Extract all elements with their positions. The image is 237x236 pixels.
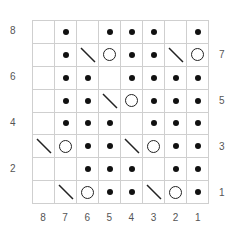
chart-cell — [99, 181, 121, 204]
purl-dot-icon — [151, 29, 157, 35]
chart-cell — [33, 181, 55, 204]
chart-cell — [55, 67, 77, 90]
purl-dot-icon — [129, 189, 135, 195]
chart-cell — [33, 21, 55, 44]
purl-dot-icon — [173, 75, 179, 81]
column-label: 3 — [143, 212, 165, 223]
purl-dot-icon — [151, 120, 157, 126]
chart-cell — [99, 135, 121, 158]
chart-cell — [77, 113, 99, 136]
decrease-slash-icon — [57, 183, 75, 201]
purl-dot-icon — [63, 75, 69, 81]
chart-cell — [55, 135, 77, 158]
purl-dot-icon — [63, 120, 69, 126]
chart-cell — [33, 113, 55, 136]
chart-cell — [165, 90, 187, 113]
chart-cell — [99, 90, 121, 113]
purl-dot-icon — [85, 143, 91, 149]
chart-cell — [165, 135, 187, 158]
chart-cell — [77, 90, 99, 113]
purl-dot-icon — [195, 98, 201, 104]
chart-cell — [99, 158, 121, 181]
chart-cell — [55, 44, 77, 67]
chart-cell — [121, 113, 143, 136]
decrease-slash-icon — [35, 137, 53, 155]
purl-dot-icon — [173, 120, 179, 126]
chart-cell — [33, 67, 55, 90]
purl-dot-icon — [107, 143, 113, 149]
row-label: 5 — [219, 95, 225, 106]
chart-cell — [121, 67, 143, 90]
column-label: 5 — [98, 212, 120, 223]
chart-cell — [121, 90, 143, 113]
chart-cell — [55, 90, 77, 113]
chart-cell — [99, 113, 121, 136]
chart-cell — [77, 67, 99, 90]
row-label: 2 — [10, 163, 16, 174]
chart-cell — [143, 67, 165, 90]
chart-cell — [121, 181, 143, 204]
chart-cell — [187, 135, 209, 158]
purl-dot-icon — [173, 98, 179, 104]
purl-dot-icon — [129, 75, 135, 81]
purl-dot-icon — [173, 166, 179, 172]
chart-cell — [143, 113, 165, 136]
column-label: 1 — [187, 212, 209, 223]
chart-cell — [121, 44, 143, 67]
purl-dot-icon — [129, 52, 135, 58]
chart-cell — [165, 181, 187, 204]
chart-cell — [187, 67, 209, 90]
chart-cell — [187, 113, 209, 136]
chart-cell — [77, 21, 99, 44]
chart-cell — [187, 158, 209, 181]
chart-cell — [77, 158, 99, 181]
chart-cell — [121, 135, 143, 158]
purl-dot-icon — [195, 166, 201, 172]
purl-dot-icon — [85, 75, 91, 81]
purl-dot-icon — [151, 52, 157, 58]
chart-cell — [187, 44, 209, 67]
purl-dot-icon — [107, 166, 113, 172]
purl-dot-icon — [173, 143, 179, 149]
purl-dot-icon — [195, 75, 201, 81]
purl-dot-icon — [107, 189, 113, 195]
purl-dot-icon — [195, 29, 201, 35]
chart-cell — [55, 181, 77, 204]
row-label: 1 — [219, 187, 225, 198]
purl-dot-icon — [151, 75, 157, 81]
chart-cell — [187, 181, 209, 204]
chart-cell — [165, 21, 187, 44]
decrease-slash-icon — [123, 137, 141, 155]
decrease-slash-icon — [79, 46, 97, 64]
yarn-over-circle-icon — [125, 94, 138, 107]
chart-cell — [99, 44, 121, 67]
row-label: 6 — [10, 71, 16, 82]
purl-dot-icon — [195, 143, 201, 149]
chart-cell — [165, 44, 187, 67]
yarn-over-circle-icon — [81, 186, 94, 199]
chart-cell — [99, 67, 121, 90]
chart-cell — [99, 21, 121, 44]
chart-cell — [55, 158, 77, 181]
chart-cell — [55, 21, 77, 44]
purl-dot-icon — [63, 98, 69, 104]
column-label: 6 — [76, 212, 98, 223]
purl-dot-icon — [85, 98, 91, 104]
chart-cell — [143, 90, 165, 113]
chart-cell — [33, 44, 55, 67]
row-label: 4 — [10, 117, 16, 128]
row-label: 3 — [219, 141, 225, 152]
chart-cell — [77, 181, 99, 204]
chart-cell — [187, 21, 209, 44]
chart-cell — [33, 158, 55, 181]
chart-cell — [165, 67, 187, 90]
chart-cell — [77, 44, 99, 67]
chart-cell — [143, 44, 165, 67]
purl-dot-icon — [107, 29, 113, 35]
yarn-over-circle-icon — [147, 140, 160, 153]
purl-dot-icon — [85, 120, 91, 126]
decrease-slash-icon — [167, 46, 185, 64]
chart-cell — [143, 21, 165, 44]
chart-cell — [33, 90, 55, 113]
yarn-over-circle-icon — [103, 48, 116, 61]
